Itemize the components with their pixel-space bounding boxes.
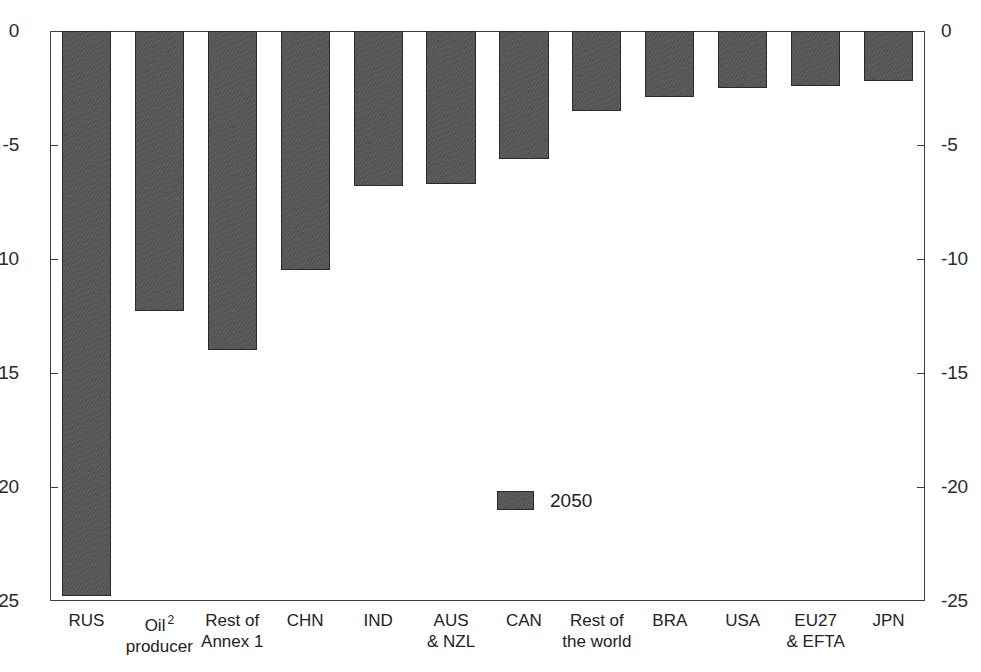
bar-usa	[718, 31, 767, 88]
bar-rus	[62, 31, 111, 596]
x-label-line2: Annex 1	[186, 631, 279, 652]
bar-chart-figure: 0-5-10-15-20-25 0-5-10-15-20-25 RUSOil2p…	[0, 0, 981, 672]
x-label-line1: AUS	[434, 611, 469, 630]
legend-swatch-2050	[497, 491, 534, 510]
y-tick-label-right-1: -5	[941, 135, 958, 154]
x-label-line1: EU27	[794, 611, 837, 630]
x-label-jpn: JPN	[842, 610, 935, 631]
bar-bra	[645, 31, 694, 97]
y-tick-label-right-4: -20	[941, 477, 968, 496]
legend-label-2050: 2050	[550, 491, 592, 510]
bar-aus-nzl	[426, 31, 475, 184]
x-label-line2: & EFTA	[769, 631, 862, 652]
x-label-line1: Rest of	[205, 611, 259, 630]
x-label-line2: & NZL	[405, 631, 498, 652]
bar-rest-of-the-world	[572, 31, 621, 111]
x-label-line1: Rest of	[570, 611, 624, 630]
footnote-marker: 2	[167, 613, 174, 627]
x-label-line1: Oil	[145, 616, 166, 635]
y-tick-label-right-3: -15	[941, 363, 968, 382]
y-tick-label-right-0: 0	[941, 21, 951, 40]
y-tick-label-right-2: -10	[941, 249, 968, 268]
y-tick-label-left-5: -25	[0, 591, 19, 610]
x-label-line1: BRA	[652, 611, 687, 630]
y-tick-label-left-3: -15	[0, 363, 19, 382]
y-tick-label-left-2: -10	[0, 249, 19, 268]
bar-can	[499, 31, 548, 159]
y-tick-label-left-1: -5	[3, 135, 20, 154]
x-label-line1: CAN	[506, 611, 542, 630]
legend: 2050	[497, 491, 592, 510]
y-tick-label-left-4: -20	[0, 477, 19, 496]
bar-eu27-efta	[791, 31, 840, 86]
bar-oil-producer	[135, 31, 184, 311]
y-tick-label-right-5: -25	[941, 591, 968, 610]
x-label-line1: JPN	[872, 611, 904, 630]
y-tick-label-left-0: 0	[9, 21, 19, 40]
x-label-line1: USA	[725, 611, 760, 630]
x-label-line1: IND	[363, 611, 392, 630]
bar-ind	[354, 31, 403, 186]
bar-rest-of-annex-1	[208, 31, 257, 350]
x-label-line1: CHN	[287, 611, 324, 630]
x-label-line1: RUS	[69, 611, 105, 630]
bars-layer	[50, 31, 925, 601]
x-label-line2: the world	[550, 631, 643, 652]
bar-jpn	[864, 31, 913, 81]
bar-chn	[281, 31, 330, 270]
